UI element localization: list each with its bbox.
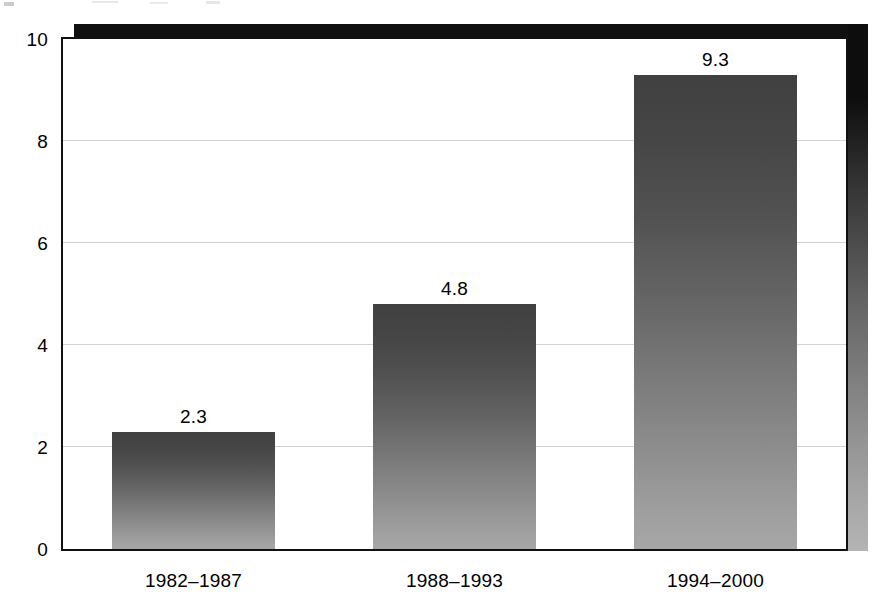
y-axis-tick-label: 8	[37, 131, 48, 153]
y-axis-tick-label: 6	[37, 233, 48, 255]
bar	[373, 304, 536, 549]
y-axis: 0246810	[0, 37, 48, 551]
scan-artifact	[92, 1, 118, 3]
plot-area: 2.34.89.3	[61, 37, 848, 551]
bar-value-label: 2.3	[72, 406, 315, 428]
scan-artifact	[206, 1, 220, 4]
y-axis-tick-label: 4	[37, 335, 48, 357]
x-axis-tick-label: 1994–2000	[585, 570, 846, 592]
y-axis-tick-label: 10	[26, 29, 48, 51]
chart-shadow-right	[848, 24, 868, 551]
x-axis: 1982–19871988–19931994–2000	[61, 556, 848, 596]
x-axis-tick-label: 1988–1993	[324, 570, 585, 592]
bar-value-label: 4.8	[333, 278, 576, 300]
y-axis-tick-label: 2	[37, 437, 48, 459]
bar	[634, 75, 797, 549]
bar	[112, 432, 275, 549]
y-axis-tick-label: 0	[37, 539, 48, 561]
bar-chart: 2.34.89.3 0246810 1982–19871988–19931994…	[0, 0, 885, 613]
scan-artifact	[150, 2, 168, 4]
chart-shadow-top	[74, 24, 868, 37]
x-axis-tick-label: 1982–1987	[63, 570, 324, 592]
scan-artifact	[4, 2, 14, 6]
bar-value-label: 9.3	[594, 49, 837, 71]
